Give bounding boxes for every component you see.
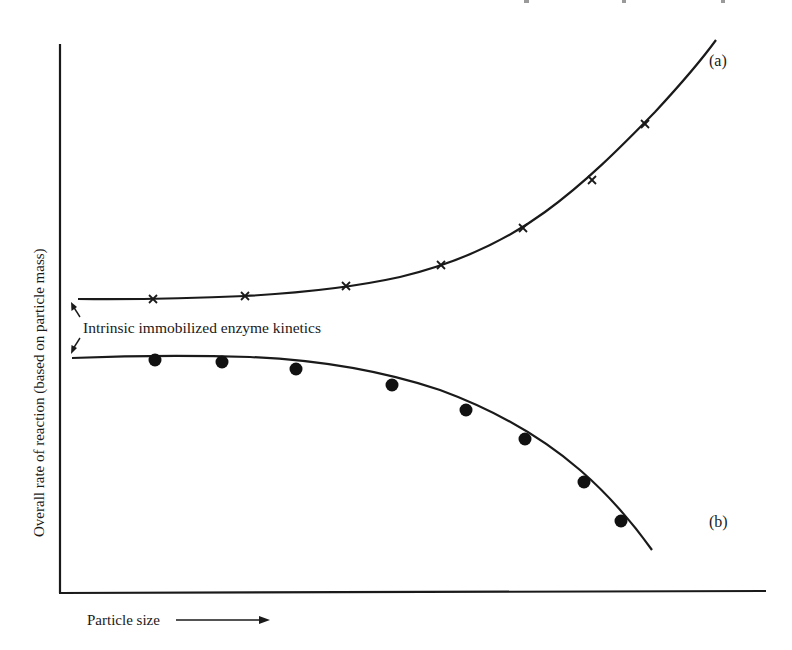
dot-marker-icon	[519, 433, 532, 446]
dot-marker-icon	[290, 363, 303, 376]
series-b-label: (b)	[709, 513, 728, 531]
series-a-label: (a)	[709, 52, 727, 70]
figure: Overall rate of reaction (based on parti…	[0, 0, 792, 650]
annotation-arrow-up-icon	[71, 302, 80, 317]
chart-canvas: Overall rate of reaction (based on parti…	[0, 0, 792, 650]
annotation-arrow-down-icon	[71, 338, 80, 354]
curve-b	[72, 356, 652, 550]
series-a-markers	[149, 120, 649, 303]
y-axis-label: Overall rate of reaction (based on parti…	[31, 248, 48, 537]
running-header-fragment	[524, 0, 725, 3]
curve-a	[78, 40, 716, 299]
x-axis-label: Particle size	[87, 612, 160, 628]
x-marker-icon	[588, 176, 596, 184]
dot-marker-icon	[615, 515, 628, 528]
dot-marker-icon	[460, 404, 473, 417]
dot-marker-icon	[386, 379, 399, 392]
dot-marker-icon	[149, 354, 162, 367]
annotation-intrinsic-kinetics: Intrinsic immobilized enzyme kinetics	[83, 319, 321, 336]
x-axis-direction-arrow-icon	[176, 616, 270, 624]
dot-marker-icon	[216, 356, 229, 369]
series-b-markers	[149, 354, 628, 528]
dot-marker-icon	[578, 476, 591, 489]
x-axis	[59, 591, 766, 593]
